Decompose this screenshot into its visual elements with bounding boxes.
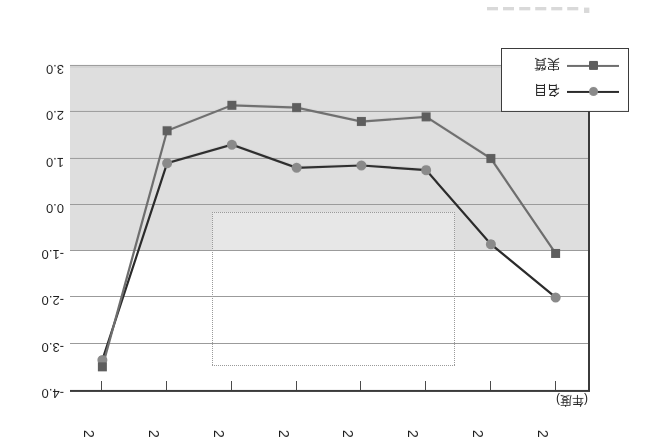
y-tick-label: 2.0 [18, 108, 64, 123]
data-point-circle[interactable] [551, 292, 561, 302]
legend-label-real: 実質 [534, 57, 560, 76]
data-point-circle[interactable] [486, 239, 496, 249]
data-point-circle[interactable] [227, 140, 237, 150]
data-point-square[interactable] [227, 101, 236, 110]
x-tick-label-2007: 2007 [146, 430, 162, 438]
series-line-名目 [102, 145, 555, 360]
series-line-実質 [102, 105, 555, 367]
y-tick-label: -4.0 [18, 386, 64, 401]
x-tick-label-2005: 2005 [276, 430, 292, 438]
x-tick-label-2003: 2003 [405, 430, 421, 438]
data-point-circle[interactable] [292, 163, 302, 173]
y-tick-label: 0.0 [18, 201, 64, 216]
y-tick-label: -3.0 [18, 340, 64, 355]
x-axis-unit-label: (年度) [556, 393, 588, 410]
data-point-square[interactable] [486, 154, 495, 163]
x-tick-label-2002: 2002 [470, 430, 486, 438]
y-tick-label: -1.0 [18, 247, 64, 262]
x-tick-label-2008: 2008 [81, 430, 97, 438]
data-point-square[interactable] [551, 249, 560, 258]
series-plot-layer [68, 64, 588, 390]
data-point-square[interactable] [422, 112, 431, 121]
plot-area [70, 66, 590, 392]
x-tick-label-2006: 2006 [211, 430, 227, 438]
legend-label-nominal: 名目 [534, 83, 560, 102]
chart-legend: 名目 実質 [501, 48, 629, 112]
data-point-square[interactable] [357, 117, 366, 126]
data-point-square[interactable] [292, 103, 301, 112]
x-tick-label-2001: 2001 [535, 430, 551, 438]
circle-marker-icon [589, 87, 598, 96]
legend-item-nominal: 名目 [507, 81, 619, 103]
x-tick-label-2004: 2004 [340, 430, 356, 438]
data-point-circle[interactable] [356, 161, 366, 171]
rotated-figure-wrapper: ■ ▬ ▬ ▬ ▬ ▬ ▬ -4.0-3.0-2.0-1.00.01.02.03… [0, 0, 646, 438]
data-point-circle[interactable] [162, 158, 172, 168]
square-marker-icon [589, 61, 598, 70]
chart-figure: ■ ▬ ▬ ▬ ▬ ▬ ▬ -4.0-3.0-2.0-1.00.01.02.03… [0, 0, 646, 438]
legend-item-real: 実質 [507, 55, 619, 77]
cropped-title-fragment: ■ ▬ ▬ ▬ ▬ ▬ ▬ [434, 5, 590, 17]
data-point-square[interactable] [163, 126, 172, 135]
legend-swatch-real [567, 60, 619, 72]
y-tick-label: -2.0 [18, 293, 64, 308]
y-tick-label: 1.0 [18, 155, 64, 170]
data-point-circle[interactable] [421, 165, 431, 175]
data-point-square[interactable] [98, 362, 107, 371]
legend-swatch-nominal [567, 86, 619, 98]
y-tick-label: 3.0 [18, 62, 64, 77]
